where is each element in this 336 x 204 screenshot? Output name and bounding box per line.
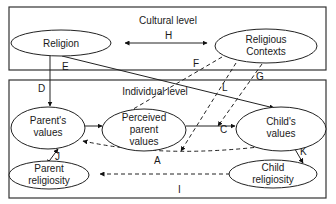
node-perceived-line2: parent [130, 124, 159, 135]
node-religious-contexts-line2: Contexts [246, 46, 285, 57]
edge-label-a: A [154, 155, 161, 166]
node-perceived-line3: values [130, 136, 159, 147]
edge-e [62, 56, 274, 108]
node-parent-religiosity: Parent religiosity [9, 161, 89, 189]
cultural-level-title: Cultural level [139, 15, 197, 26]
edge-label-e: E [62, 61, 69, 72]
node-parents-values-line2: values [34, 127, 63, 138]
edge-label-f: F [193, 58, 199, 69]
edge-label-d: D [38, 83, 45, 94]
edge-label-l: L [222, 82, 228, 93]
node-parents-values: Parent's values [11, 107, 85, 149]
node-child-religiosity-line1: Child [262, 162, 285, 173]
node-childs-values-line2: values [267, 128, 296, 139]
node-perceived-line1: Perceived [122, 112, 166, 123]
node-parent-religiosity-line2: religiosity [28, 175, 70, 186]
individual-level-title: Individual level [122, 86, 188, 97]
node-childs-values: Child's values [236, 107, 326, 151]
node-child-religiosity-line2: religiosity [252, 174, 294, 185]
edge-label-j: J [55, 151, 60, 162]
node-perceived-parent-values: Perceived parent values [102, 109, 186, 151]
node-parent-religiosity-line1: Parent [34, 163, 64, 174]
edge-label-h: H [165, 30, 172, 41]
religion-values-transmission-diagram: Cultural level Individual level H D E F … [0, 0, 336, 204]
node-child-religiosity: Child religiosity [229, 160, 317, 188]
edge-label-c: C [220, 124, 227, 135]
node-religion: Religion [11, 30, 111, 56]
node-childs-values-line1: Child's [266, 116, 296, 127]
edge-label-i: I [178, 184, 181, 195]
node-religion-label: Religion [43, 38, 79, 49]
node-parents-values-line1: Parent's [30, 115, 66, 126]
edge-label-g: G [256, 71, 264, 82]
node-religious-contexts-line1: Religious [245, 34, 286, 45]
node-religious-contexts: Religious Contexts [215, 29, 317, 63]
